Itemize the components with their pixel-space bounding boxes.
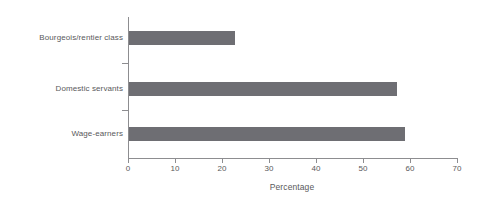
x-axis-tick-label-70: 70: [437, 164, 477, 173]
x-axis-tick-label-10: 10: [155, 164, 195, 173]
category-label-wage-earners: Wage-earners: [0, 129, 123, 139]
x-axis-title: Percentage: [0, 182, 482, 192]
x-axis-tick-label-50: 50: [343, 164, 383, 173]
x-axis-title-text: Percentage: [270, 182, 314, 192]
x-axis-line: [128, 158, 458, 159]
x-axis-tick-30: [269, 159, 270, 163]
x-axis-tick-label-0: 0: [108, 164, 148, 173]
bar-wage-earners: [129, 127, 405, 141]
x-axis-tick-10: [175, 159, 176, 163]
x-axis-tick-label-20: 20: [202, 164, 242, 173]
x-axis-tick-60: [410, 159, 411, 163]
x-axis-tick-label-60: 60: [390, 164, 430, 173]
x-axis-tick-40: [316, 159, 317, 163]
x-axis-tick-0: [128, 159, 129, 163]
y-axis-tick-1: [122, 110, 128, 111]
x-axis-tick-label-40: 40: [296, 164, 336, 173]
x-axis-tick-label-30: 30: [249, 164, 289, 173]
bar-chart: 0 10 20 30 40 50 60 70 Bourgeois/rentier…: [0, 0, 482, 210]
x-axis-tick-20: [222, 159, 223, 163]
x-axis-tick-50: [363, 159, 364, 163]
x-axis-tick-70: [457, 159, 458, 163]
bar-bourgeois-rentier-class: [129, 31, 235, 45]
category-label-bourgeois-rentier-class: Bourgeois/rentier class: [0, 33, 123, 43]
bar-domestic-servants: [129, 82, 397, 96]
category-label-domestic-servants: Domestic servants: [0, 84, 123, 94]
y-axis-tick-0: [122, 63, 128, 64]
y-axis-line: [128, 17, 129, 159]
